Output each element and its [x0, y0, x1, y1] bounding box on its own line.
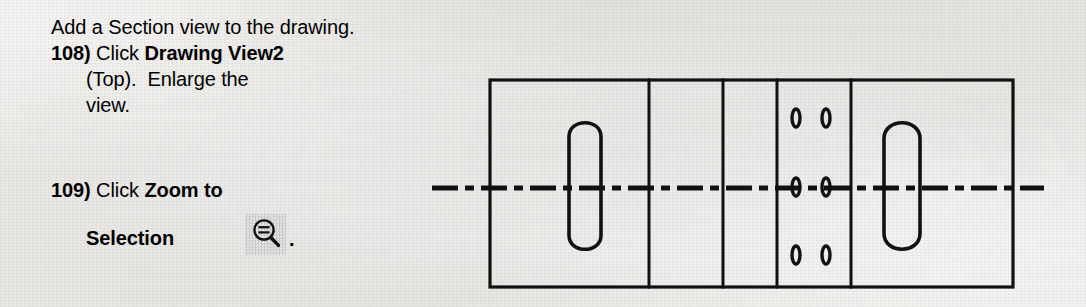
magnifier-handle	[271, 237, 279, 245]
zoom-to-selection-icon[interactable]	[245, 214, 286, 255]
step-108-click-label: Click	[96, 42, 144, 64]
step-109-trailing-period: .	[289, 228, 295, 251]
hole-2	[822, 109, 830, 127]
step-108-line-1: 108) Click Drawing View2	[51, 43, 284, 63]
step-108-target-view: Drawing View2	[144, 42, 284, 64]
step-109-command-part-2: Selection	[86, 228, 174, 248]
step-109-command-part-1: Zoom to	[144, 179, 222, 201]
step-109-click-label: Click	[96, 179, 144, 201]
instruction-text-column: Add a Section view to the drawing. 108) …	[0, 0, 430, 307]
step-109-number: 109)	[51, 179, 91, 201]
hole-5	[792, 246, 800, 264]
step-108-line-2: (Top). Enlarge the	[86, 69, 249, 89]
step-108-number: 108)	[51, 42, 91, 64]
step-108-line-3: view.	[86, 95, 130, 115]
hole-6	[822, 246, 830, 264]
step-109-line-1: 109) Click Zoom to	[51, 180, 223, 200]
magnifier-glyph	[245, 214, 286, 255]
hole-1	[792, 109, 800, 127]
intro-line: Add a Section view to the drawing.	[51, 17, 354, 37]
scanned-page: Add a Section view to the drawing. 108) …	[0, 0, 1086, 307]
